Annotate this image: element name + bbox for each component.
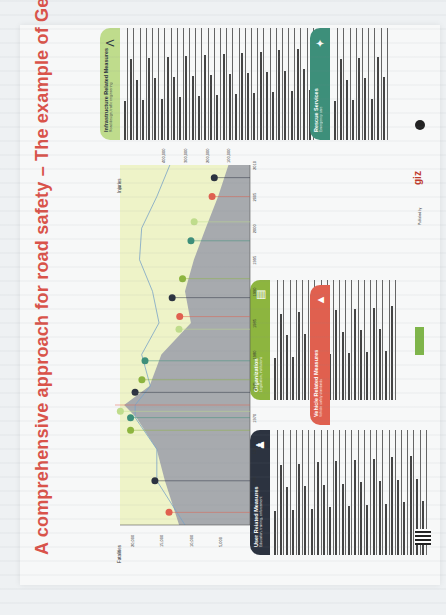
measure-text: [124, 101, 126, 140]
measure-text: [385, 504, 387, 555]
measure-text: [272, 92, 274, 140]
measure-text: [311, 509, 313, 555]
injuries-tick: 200,000: [205, 149, 210, 163]
measure-text: [364, 78, 366, 140]
measure-text: [371, 99, 373, 140]
measure-text: [323, 485, 325, 555]
injuries-tick: 300,000: [183, 149, 188, 163]
measure-marker-icon: [166, 509, 173, 516]
measure-text: [274, 358, 276, 400]
measure-text: [142, 100, 144, 140]
car-crash-icon: ▲: [313, 293, 327, 307]
measure-marker-icon: [169, 294, 176, 301]
measure-text: [298, 312, 300, 400]
year-tick: 2005: [252, 193, 257, 202]
measure-text: [179, 97, 181, 140]
year-tick: 1990: [252, 287, 257, 296]
measure-text: [292, 510, 294, 555]
measure-text: [286, 335, 288, 400]
measure-text: [286, 488, 288, 556]
measure-row: [382, 28, 388, 140]
measure-text: [154, 78, 156, 140]
measure-text: [292, 357, 294, 400]
measure-text: [317, 463, 319, 556]
panel-vehicle-subtitle: Vehicle safety standards: [319, 293, 323, 417]
year-tick: 1953: [252, 521, 257, 530]
fatalities-tick: 20,000: [130, 535, 135, 547]
panel-rescue-services: Rescue Services Emergency care ✦: [310, 28, 380, 140]
measure-text: [185, 56, 187, 140]
green-emblem: [415, 327, 424, 355]
measure-text: [352, 100, 354, 140]
measure-text: [329, 508, 331, 556]
measure-marker-icon: [127, 414, 134, 421]
measure-text: [223, 54, 225, 140]
measure-marker-icon: [209, 193, 216, 200]
measure-text: [130, 59, 132, 140]
measure-text: [354, 460, 356, 555]
measure-text: [253, 93, 255, 140]
road-safety-poster: A comprehensive approach for road safety…: [20, 25, 440, 585]
measure-text: [348, 506, 350, 555]
measure-text: [235, 94, 237, 140]
measure-text: [274, 511, 276, 555]
measure-text: [241, 53, 243, 140]
measure-marker-icon: [176, 326, 183, 333]
measure-text: [346, 80, 348, 140]
bmz-logo: [415, 120, 425, 130]
measure-text: [391, 306, 393, 400]
injuries-tick: 400,000: [161, 149, 166, 163]
measure-marker-icon: [179, 275, 186, 282]
panel-rescue-rows: [332, 28, 388, 140]
qr-code: [415, 529, 431, 545]
panel-infrastructure-measures: Infrastructure Related Measures Road des…: [100, 28, 290, 140]
measure-text: [161, 99, 163, 140]
fatalities-injuries-chart: Fatalities Injuries 19531960196519701975…: [115, 145, 265, 565]
measure-text: [342, 484, 344, 555]
measure-marker-icon: [138, 376, 145, 383]
measure-text: [334, 101, 336, 140]
year-tick: 1980: [252, 351, 257, 360]
panel-user-measures: User Related Measures Education, trainin…: [250, 430, 370, 555]
measure-row: [390, 280, 396, 400]
measure-marker-icon: [132, 389, 139, 396]
measure-text: [266, 72, 268, 140]
fatalities-tick: 5,000: [218, 537, 223, 547]
fatalities-tick: 15,000: [159, 535, 164, 547]
measure-text: [148, 58, 150, 140]
measure-text: [192, 76, 194, 140]
panel-vehicle-measures: Vehicle Related Measures Vehicle safety …: [310, 285, 370, 425]
measure-text: [340, 59, 342, 140]
year-tick: 1985: [252, 319, 257, 328]
measure-text: [136, 80, 138, 140]
measure-marker-icon: [151, 477, 158, 484]
panel-rescue-header: Rescue Services Emergency care ✦: [310, 28, 330, 140]
fatalities-tick: 10,000: [189, 535, 194, 547]
measure-text: [373, 308, 375, 400]
panel-infrastructure-header: Infrastructure Related Measures Road des…: [100, 28, 120, 140]
panel-infrastructure-subtitle: Road design, traffic engineering: [109, 36, 113, 132]
siren-icon: ✦: [313, 36, 327, 50]
measure-text: [304, 486, 306, 555]
measure-text: [247, 73, 249, 140]
measure-text: [377, 57, 379, 140]
measure-text: [403, 503, 405, 556]
injuries-tick: 100,000: [226, 149, 231, 163]
measure-marker-icon: [142, 357, 149, 364]
measure-text: [379, 481, 381, 555]
measure-text: [360, 483, 362, 556]
measure-text: [280, 314, 282, 400]
panel-vehicle-header: Vehicle Related Measures Vehicle safety …: [310, 285, 330, 425]
year-tick: 1995: [252, 256, 257, 265]
measure-text: [284, 71, 286, 140]
measure-text: [210, 75, 212, 140]
measure-text: [291, 91, 293, 140]
measure-marker-icon: [191, 218, 198, 225]
measure-marker-icon: [176, 313, 183, 320]
year-tick: 2000: [252, 224, 257, 233]
panel-infrastructure-rows: [122, 28, 314, 140]
poster-title: A comprehensive approach for road safety…: [32, 0, 53, 555]
panel-rescue-subtitle: Emergency care: [319, 36, 323, 132]
measure-text: [391, 458, 393, 556]
year-tick: 1975: [252, 382, 257, 391]
